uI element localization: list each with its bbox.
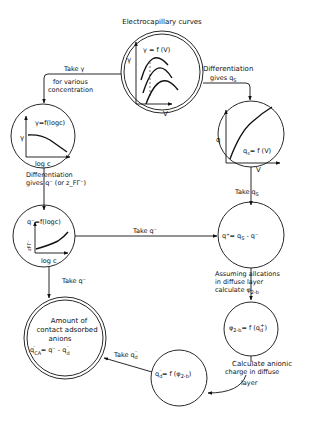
- node-equation: φ2-b= f (qd+): [229, 322, 267, 333]
- curve-equation: γ=f(logc): [35, 119, 65, 127]
- x-axis-label: V: [163, 110, 168, 118]
- node-phi: φ2-b= f (qd+): [224, 302, 278, 356]
- edge-differentiation-qminus: Differentiation gives q⁻ (or z_FΓ⁻): [26, 168, 86, 210]
- diagram-title: Electrocapillary curves: [122, 18, 202, 26]
- edge-label: Assuming allcations: [215, 270, 280, 278]
- node-label: contact adsorbed: [36, 326, 97, 334]
- edge-label: gives qS: [210, 74, 237, 83]
- edge-calc-anionic: Calculate anionic charge in diffuse laye…: [208, 356, 292, 393]
- flow-diagram: Electrocapillary curves γ V γ = f (V) Ta…: [0, 0, 312, 422]
- edge-label: for various: [53, 78, 88, 86]
- edge-label: Take qd⁻: [113, 349, 138, 360]
- curve-equation: γ = f (V): [143, 46, 170, 54]
- y-axis-label: γ: [20, 134, 24, 142]
- edge-label: Calculate anionic: [232, 360, 292, 368]
- node-equation: q⁺= qS - q⁻: [222, 232, 258, 241]
- node-electrocapillary-curves: γ V γ = f (V): [121, 31, 203, 118]
- edge-label: Differentiation: [203, 65, 253, 73]
- node-outer-ring: [121, 31, 203, 113]
- curve: [36, 232, 68, 249]
- x-axis-label: V: [256, 166, 261, 174]
- node-qs-v: q V qs= f (V): [216, 101, 284, 174]
- arrow-take-qd: [104, 358, 152, 372]
- node-equation: qCA⁻= q⁻ - qd⁻: [30, 344, 70, 356]
- edge-take-qd: Take qd⁻: [104, 349, 152, 372]
- node-label: anions: [48, 335, 71, 343]
- edge-label: in diffuse layer: [215, 278, 264, 286]
- edge-label: layer: [241, 379, 258, 387]
- node-label: Amount of: [51, 317, 88, 325]
- curve-equation: q⁻=f(logc): [27, 218, 61, 226]
- curve-2: [143, 68, 172, 93]
- x-axis-label: log c: [41, 257, 57, 265]
- edge-label: charge in diffuse: [225, 368, 279, 376]
- edge-label: Take q⁻: [132, 227, 157, 235]
- y-axis-label: γ: [127, 56, 131, 64]
- node-qd: qd⁻= f (φ2-b): [151, 350, 207, 406]
- x-axis-label: log c: [35, 160, 51, 168]
- edge-take-qminus-down: Take q⁻: [49, 267, 86, 298]
- edge-differentiation-qs: Differentiation gives qS: [203, 65, 253, 100]
- curve-3: [146, 81, 178, 104]
- node-ring: [218, 101, 284, 167]
- node-qminus-logc: q⁻=f(logc) zFΓ⁻ log c: [13, 205, 75, 267]
- edge-label: Take γ: [63, 65, 84, 73]
- node-qplus: q⁺= qS - q⁻: [218, 202, 284, 268]
- edge-label: Differentiation: [26, 171, 73, 179]
- y-axis-label: q: [216, 136, 220, 144]
- edge-label: Take qS: [234, 188, 259, 197]
- node-equation: qd⁻= f (φ2-b): [155, 368, 191, 379]
- curve-equation: qs= f (V): [243, 147, 271, 156]
- edge-take-gamma: Take γ for various concentration: [44, 65, 121, 103]
- edge-label: calculate φ2-b: [215, 286, 259, 295]
- arrow-differentiation-qs: [203, 83, 250, 100]
- y-axis-label: zFΓ⁻: [26, 240, 32, 251]
- edge-assuming: Assuming allcations in diffuse layer cal…: [215, 268, 280, 300]
- curve: [28, 135, 67, 152]
- edge-take-qminus-right: Take q⁻: [75, 227, 217, 236]
- edge-label: Take q⁻: [61, 277, 86, 285]
- node-contact-adsorbed: Amount of contact adsorbed anions qCA⁻= …: [24, 297, 106, 379]
- edge-label: concentration: [48, 86, 93, 94]
- node-gamma-logc: γ=f(logc) γ log c: [11, 104, 75, 168]
- edge-label: gives q⁻ (or z_FΓ⁻): [26, 179, 86, 187]
